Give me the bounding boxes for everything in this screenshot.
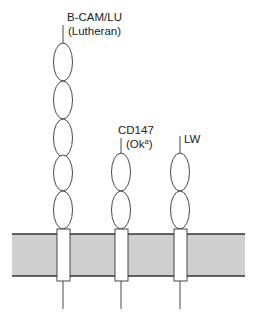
ig-domain-5 [54, 191, 73, 229]
ig-domain-2 [171, 191, 190, 229]
ig-domain-1 [54, 43, 73, 81]
label-ok-a: (Oka) [126, 137, 153, 150]
ig-domain-2 [54, 81, 73, 119]
label-lutheran: (Lutheran) [68, 25, 121, 37]
label-cd147: CD147 [118, 124, 154, 136]
ig-domain-4 [54, 155, 73, 191]
transmembrane-segment [174, 229, 187, 281]
protein-lw: LW [171, 133, 201, 309]
ig-domain-1 [112, 153, 131, 191]
protein-cd147: CD147 (Oka) [112, 124, 154, 309]
ig-domain-1 [171, 153, 190, 191]
ig-domain-2 [112, 191, 131, 229]
cell-membrane [12, 234, 245, 276]
transmembrane-segment [115, 229, 128, 281]
diagram-canvas: B-CAM/LU (Lutheran) CD147 (Oka) LW [0, 0, 259, 319]
ig-domain-3 [54, 119, 73, 157]
transmembrane-segment [57, 229, 70, 281]
label-lw: LW [184, 133, 201, 145]
label-bcam-lu: B-CAM/LU [67, 11, 122, 23]
